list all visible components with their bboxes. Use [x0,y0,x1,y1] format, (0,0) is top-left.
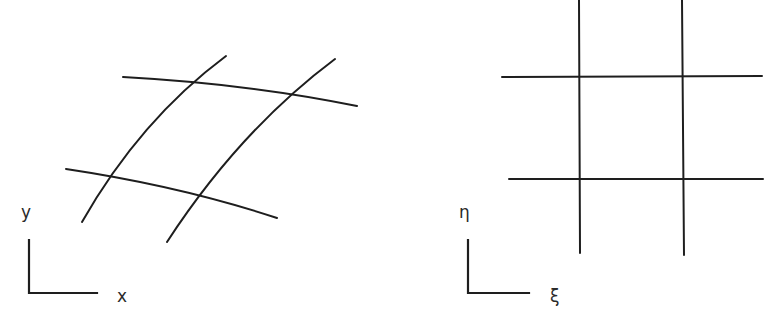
computational-axes: η ξ [459,202,559,306]
computational-vertical-right [682,0,684,255]
eta-axis-label: η [459,202,470,222]
computational-vertical-left [579,0,580,253]
physical-axes: y x [21,202,127,306]
physical-curve-right [167,59,335,242]
physical-axis-lines [29,240,97,293]
xi-axis-label: ξ [550,286,559,306]
physical-curve-bottom [66,169,277,218]
computational-axis-lines [468,240,529,293]
diagram-canvas: y x η ξ [0,0,777,318]
computational-grid [502,0,763,255]
computational-horizontal-top [502,76,762,77]
x-axis-label: x [117,286,127,306]
physical-curve-top [123,77,357,106]
physical-grid [66,56,357,242]
y-axis-label: y [21,202,31,222]
